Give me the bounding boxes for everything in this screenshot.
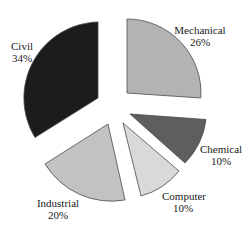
label-civil-name: Civil [10, 40, 34, 52]
label-civil-value: 34% [10, 52, 34, 64]
label-chemical-name: Chemical [200, 143, 242, 155]
label-industrial-name: Industrial [36, 197, 80, 209]
label-mechanical-name: Mechanical [174, 24, 226, 36]
label-computer: Computer 10% [162, 190, 204, 214]
label-industrial-value: 20% [36, 209, 80, 221]
label-industrial: Industrial 20% [36, 197, 80, 221]
label-computer-name: Computer [162, 190, 204, 202]
label-computer-value: 10% [162, 202, 204, 214]
label-mechanical-value: 26% [174, 36, 226, 48]
label-civil: Civil 34% [10, 40, 34, 64]
label-chemical: Chemical 10% [200, 143, 242, 167]
slice-industrial [45, 124, 125, 201]
label-mechanical: Mechanical 26% [174, 24, 226, 48]
label-chemical-value: 10% [200, 155, 242, 167]
slice-civil [24, 22, 98, 138]
